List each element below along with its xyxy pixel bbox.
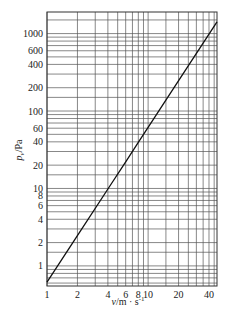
y-tick-label: 4 xyxy=(38,214,43,225)
x-tick-label: 10 xyxy=(143,289,153,300)
y-tick-label: 400 xyxy=(28,59,43,70)
y-tick-label: 60 xyxy=(33,123,43,134)
y-tick-label: 100 xyxy=(28,106,43,117)
plot-frame xyxy=(47,12,217,286)
y-tick-label: 10 xyxy=(33,183,43,194)
x-axis-label: v/m · s-1 xyxy=(111,295,145,307)
x-tick-label: 1 xyxy=(45,289,50,300)
y-tick-label: 40 xyxy=(33,136,43,147)
y-tick-label: 6 xyxy=(38,200,43,211)
y-tick-label: 1 xyxy=(38,260,43,271)
y-axis-tick-labels: 12468102040601002004006001000 xyxy=(23,28,43,271)
y-tick-label: 2 xyxy=(38,237,43,248)
y-tick-label: 1000 xyxy=(23,28,43,39)
x-tick-label: 4 xyxy=(105,289,110,300)
y-tick-label: 200 xyxy=(28,82,43,93)
y-tick-label: 600 xyxy=(28,45,43,56)
chart-canvas: 12468102040601002004006001000 1246810204… xyxy=(0,0,225,328)
y-tick-label: 20 xyxy=(33,160,43,171)
y-axis-label: pv/Pa xyxy=(13,139,26,161)
x-tick-label: 40 xyxy=(204,289,214,300)
gridlines xyxy=(47,12,217,286)
data-line xyxy=(47,22,217,282)
x-tick-label: 20 xyxy=(174,289,184,300)
x-tick-label: 2 xyxy=(75,289,80,300)
